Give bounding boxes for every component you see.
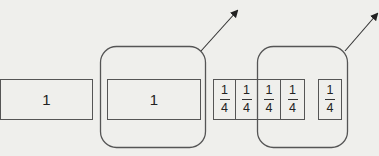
- fraction-cell: 1 4: [235, 79, 258, 120]
- fraction-denominator: 4: [221, 102, 228, 115]
- fraction-bar: [242, 99, 252, 100]
- arrow-icon: [345, 14, 377, 51]
- fraction-denominator: 4: [266, 102, 273, 115]
- arrow-icon: [201, 11, 237, 51]
- fraction-bar: [220, 99, 230, 100]
- fraction-cell: 1 4: [280, 79, 305, 120]
- single-fraction-cell: 1 4: [318, 79, 342, 120]
- fraction-numerator: 1: [289, 84, 296, 97]
- diagram-canvas: 1 1 1 4 1 4 1 4 1 4 1 4: [0, 0, 379, 156]
- fraction-numerator: 1: [243, 84, 250, 97]
- whole-box-label: 1: [42, 91, 50, 108]
- fraction-numerator: 1: [221, 84, 228, 97]
- fraction-numerator: 1: [266, 84, 273, 97]
- fraction-bar: [288, 99, 298, 100]
- fraction-denominator: 4: [243, 102, 250, 115]
- fraction-bar: [325, 99, 335, 100]
- fraction-bar: [264, 99, 274, 100]
- fraction-denominator: 4: [327, 102, 334, 115]
- whole-box: 1: [0, 79, 93, 120]
- fraction-cell: 1 4: [213, 79, 236, 120]
- fraction-numerator: 1: [327, 84, 334, 97]
- fraction-cell: 1 4: [257, 79, 281, 120]
- fraction-denominator: 4: [289, 102, 296, 115]
- diagram-lines: [0, 0, 379, 156]
- grouped-whole-box: 1: [107, 79, 201, 120]
- grouped-whole-box-label: 1: [150, 91, 158, 108]
